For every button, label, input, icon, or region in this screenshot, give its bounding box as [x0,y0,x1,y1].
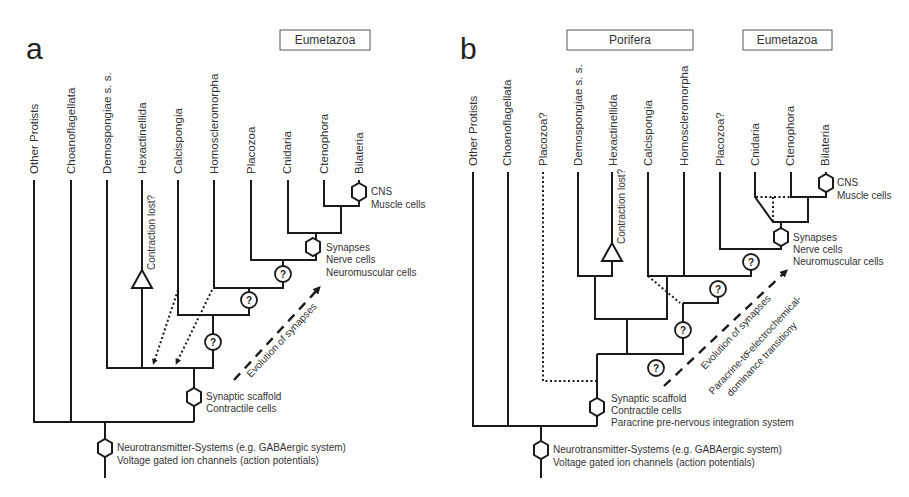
label-nerve-b: Nerve cells [793,244,842,255]
label-contractile-b: Contractile cells [611,405,682,416]
taxon-labels-a: Other Protists Choanoflagellata Demospon… [28,72,365,174]
taxon-placozoa-basal: Placozoa? [537,112,549,166]
hexagon-synaptic-scaffold-b [590,398,604,416]
clade-box-porifera: Porifera [567,30,693,50]
svg-text:?: ? [748,257,754,268]
evolution-label-a: Evolution of synapses [244,301,318,380]
question-node-b-3: ? [675,322,691,338]
question-node-a-2: ? [241,292,257,308]
question-node-a-3: ? [205,334,221,350]
taxon-other-protists: Other Protists [28,103,40,174]
svg-text:?: ? [680,325,686,336]
dotted-arrow-2 [177,290,212,362]
taxon-labels-b: Other Protists Choanoflagellata Placozoa… [467,64,831,166]
contraction-lost-triangle [132,270,152,288]
taxon-homoscleromorpha: Homoscleromorpha [208,73,220,174]
label-voltage-b: Voltage gated ion channels (action poten… [553,457,755,468]
label-neurotransmitter-a: Neurotransmitter-Systems (e.g. GABAergic… [117,442,346,453]
tree-branches-a [34,180,359,478]
label-neurotransmitter-b: Neurotransmitter-Systems (e.g. GABAergic… [553,444,782,455]
taxon-placozoa-derived: Placozoa? [714,112,726,166]
label-voltage-a: Voltage gated ion channels (action poten… [117,455,319,466]
dotted-calc-link [648,276,680,303]
svg-text:?: ? [246,295,252,306]
taxon-cnidaria: Cnidaria [281,131,293,174]
taxon-choanoflagellata: Choanoflagellata [65,87,77,174]
panel-b: b Porifera Eumetazoa Other Protists Choa… [460,30,891,478]
panel-a-label: a [26,32,43,65]
question-node-a-1: ? [275,266,291,282]
dotted-arrow-1 [154,290,178,362]
taxon-demospongiae: Demospongiae s. s. [101,72,113,174]
taxon-placozoa: Placozoa [245,126,257,174]
hexagon-neurotransmitter-b [534,441,548,459]
label-synapses-a: Synapses [326,242,370,253]
contraction-lost-label-b: Contraction lost? [616,169,627,244]
hexagon-neurotransmitter-a [98,439,112,457]
taxon-ctenophora-b: Ctenophora [784,105,796,166]
svg-text:?: ? [653,363,659,374]
label-synapses-b: Synapses [793,232,837,243]
clade-box-eumetazoa-b: Eumetazoa [743,30,832,50]
question-node-b-1: ? [743,254,759,270]
clade-box-eumetazoa-a: Eumetazoa [280,30,370,50]
taxon-hexactinellida-b: Hexactinellida [607,94,619,166]
taxon-bilateria: Bilateria [353,132,365,174]
label-muscle-a: Muscle cells [371,199,425,210]
contraction-lost-triangle-b [602,243,622,261]
taxon-calcispongia: Calcispongia [172,108,184,174]
taxon-bilateria-b: Bilateria [819,124,831,166]
question-node-b-4: ? [648,360,664,376]
taxon-other-protists-b: Other Protists [467,95,479,166]
label-paracrine-b: Paracrine pre-nervous integration system [611,417,794,428]
svg-text:?: ? [715,284,721,295]
label-neuromuscular-b: Neuromuscular cells [793,256,884,267]
label-cns-a: CNS [371,186,392,197]
taxon-homoscleromorpha-b: Homoscleromorpha [678,65,690,166]
panel-a: a Eumetazoa Other Protists Choanoflagell… [26,30,425,478]
label-neuromuscular-a: Neuromuscular cells [326,267,417,278]
clade-label-eumetazoa: Eumetazoa [295,33,356,47]
taxon-demospongiae-b: Demospongiae s. s. [572,64,584,166]
hexagon-synapses-b [774,228,788,246]
taxon-choanoflagellata-b: Choanoflagellata [501,79,513,166]
panel-b-label: b [460,32,477,65]
label-muscle-b: Muscle cells [837,190,891,201]
label-nerve-a: Nerve cells [326,254,375,265]
label-synaptic-scaffold-a: Synaptic scaffold [206,391,281,402]
question-node-b-2: ? [710,281,726,297]
clade-label-eumetazoa-b: Eumetazoa [757,33,818,47]
phylogeny-figure: a Eumetazoa Other Protists Choanoflagell… [0,0,909,497]
taxon-cnidaria-b: Cnidaria [749,123,761,166]
hexagon-cns-b [819,174,833,192]
contraction-lost-label: Contraction lost? [146,195,157,270]
hexagon-synapses-a [306,238,320,256]
label-synaptic-scaffold-b: Synaptic scaffold [611,393,686,404]
hexagon-synaptic-scaffold-a [187,388,201,406]
label-cns-b: CNS [837,177,858,188]
clade-label-porifera: Porifera [609,33,651,47]
svg-text:?: ? [280,269,286,280]
label-contractile-a: Contractile cells [206,403,277,414]
taxon-ctenophora: Ctenophora [318,113,330,174]
svg-text:?: ? [210,337,216,348]
taxon-hexactinellida: Hexactinellida [136,102,148,174]
taxon-calcispongia-b: Calcispongia [642,100,654,166]
hexagon-cns-a [352,183,366,201]
